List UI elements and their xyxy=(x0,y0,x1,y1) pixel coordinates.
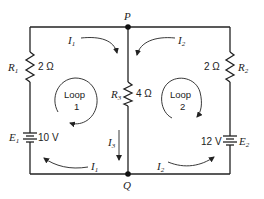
arrow-icon xyxy=(81,38,117,53)
resistor-r2: 2 Ω R2 xyxy=(204,52,249,82)
e1-name: E1 xyxy=(8,131,19,145)
i2-bottom-label: I2 xyxy=(156,160,165,174)
current-i1-top: I1 xyxy=(67,34,117,53)
loop-2-label: Loop xyxy=(170,89,191,100)
current-i2-top: I2 xyxy=(137,34,186,55)
resistor-r3: R3 4 Ω xyxy=(110,82,152,106)
arrow-icon xyxy=(168,157,214,166)
i1-bottom-label: I1 xyxy=(90,160,98,174)
loop-1: Loop 1 xyxy=(55,78,97,124)
resistor-r1: R1 2 Ω xyxy=(7,52,54,82)
current-i3: I3 xyxy=(107,130,119,160)
i2-top-label: I2 xyxy=(177,34,186,48)
i3-label: I3 xyxy=(107,136,116,150)
r1-value: 2 Ω xyxy=(38,61,54,72)
r2-value: 2 Ω xyxy=(204,61,220,72)
battery-e2: 12 V E2 xyxy=(201,135,250,149)
loop-1-number: 1 xyxy=(74,101,79,112)
r2-name: R2 xyxy=(237,61,249,75)
circuit-diagram: R1 2 Ω 2 Ω R2 R3 4 Ω E1 10 V 12 V E2 P Q xyxy=(0,0,264,199)
i1-top-label: I1 xyxy=(67,34,75,48)
node-q-label: Q xyxy=(123,179,131,191)
current-i2-bottom: I2 xyxy=(156,157,214,174)
e1-value: 10 V xyxy=(38,132,59,143)
r1-name: R1 xyxy=(7,61,18,75)
loop-2: Loop 2 xyxy=(162,78,202,118)
e2-value: 12 V xyxy=(201,136,222,147)
r3-value: 4 Ω xyxy=(136,88,152,99)
node-p-label: P xyxy=(123,10,131,22)
r3-name: R3 xyxy=(110,88,122,102)
current-i1-bottom: I1 xyxy=(44,158,98,174)
e2-name: E2 xyxy=(238,135,250,149)
loop-2-number: 2 xyxy=(180,101,185,112)
battery-e1: E1 10 V xyxy=(8,131,59,145)
loop-1-label: Loop xyxy=(64,89,85,100)
arrow-icon xyxy=(44,158,88,168)
arrow-icon xyxy=(137,38,175,55)
